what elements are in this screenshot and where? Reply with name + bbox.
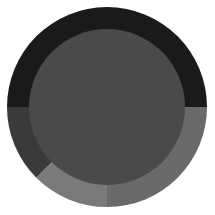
donut-chart-figure xyxy=(0,0,215,215)
donut-hole xyxy=(29,29,185,185)
donut-chart-svg xyxy=(0,0,215,215)
